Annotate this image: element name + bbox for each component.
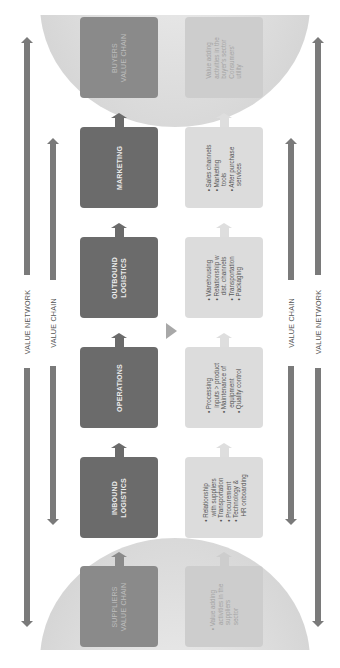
buyers-item: Value adding (205, 37, 213, 78)
inbound-detail-box: • Relationship with suppliers • Transpor… (185, 457, 263, 538)
inbound-item: • Procurement (224, 474, 232, 522)
outbound-title-line1: OUTBOUND (110, 256, 119, 298)
suppliers-detail-box: • Value adding activities in the supplie… (185, 566, 263, 647)
value-network-label-right: VALUE NETWORK (314, 290, 323, 354)
value-chain-label-right: VALUE CHAIN (287, 298, 296, 348)
value-chain-label-left: VALUE CHAIN (49, 298, 58, 348)
inbound-title-line1: INBOUND (110, 478, 119, 518)
outbound-logistics-box: OUTBOUND LOGISTICS (80, 237, 158, 318)
operations-title: OPERATIONS (115, 364, 124, 412)
outbound-item: dist. channels (220, 255, 228, 300)
marketing-item: services (235, 144, 243, 191)
outbound-detail-box: • Warehousing • Relationship w dist. cha… (185, 237, 263, 318)
buyers-detail-box: Value adding activities in the buyer's s… (185, 17, 263, 98)
marketing-item: • Sales channels (205, 144, 213, 191)
outbound-item: • Packaging (235, 255, 243, 300)
buyers-item: activities in the (213, 37, 221, 78)
suppliers-item: suppliers (224, 583, 232, 630)
buyers-dome (0, 15, 340, 127)
suppliers-title-line1: SUPPLIERS (110, 582, 119, 630)
marketing-item: • Marketing (213, 144, 221, 191)
arrow-down-icon (47, 519, 59, 525)
suppliers-item: sector (232, 583, 240, 630)
outbound-title-line2: LOGISTICS (119, 256, 128, 298)
operations-item: inputs > product (213, 362, 221, 412)
marketing-item: • After purchase (228, 144, 236, 191)
marketing-title: MARKETING (115, 145, 124, 189)
arrow-down-icon (21, 621, 33, 627)
buyers-item: buyer's sector (220, 37, 228, 78)
arrow-down-icon (285, 519, 297, 525)
inbound-item: • Relationship (202, 474, 210, 522)
arrow-down-icon (312, 621, 324, 627)
inbound-item: HR onboarding (239, 474, 247, 522)
operations-item: equipment (228, 362, 236, 412)
play-triangle-icon (166, 323, 177, 339)
inbound-item: • Transportation (217, 474, 225, 522)
operations-item: • Quality control (235, 362, 243, 412)
suppliers-dome (0, 538, 340, 650)
inbound-logistics-box: INBOUND LOGISTICS (80, 457, 158, 538)
inbound-item: • Technology & (232, 474, 240, 522)
suppliers-title-line2: VALUE CHAIN (119, 582, 128, 630)
operations-detail-box: • Processing inputs > product • Maintena… (185, 347, 263, 428)
outbound-item: • Transportation (228, 255, 236, 300)
inbound-item: with suppliers (209, 474, 217, 522)
buyers-item: utility (235, 37, 243, 78)
suppliers-value-chain-box: SUPPLIERS VALUE CHAIN (80, 566, 158, 647)
inbound-title-line2: LOGISTICS (119, 478, 128, 518)
marketing-detail-box: • Sales channels • Marketing tools • Aft… (185, 127, 263, 208)
suppliers-item: • Value adding (209, 583, 217, 630)
outbound-item: • Warehousing (205, 255, 213, 300)
value-network-label-left: VALUE NETWORK (23, 290, 32, 354)
suppliers-item: activities in the (217, 583, 225, 630)
buyers-title-line1: BUYERS (110, 33, 119, 81)
buyers-title-line2: VALUE CHAIN (119, 33, 128, 81)
operations-box: OPERATIONS (80, 347, 158, 428)
buyers-item: Consumers' (228, 37, 236, 78)
buyers-value-chain-box: BUYERS VALUE CHAIN (80, 17, 158, 98)
outbound-item: • Relationship w (213, 255, 221, 300)
marketing-box: MARKETING (80, 127, 158, 208)
marketing-item: tools (220, 144, 228, 191)
operations-item: • Maintenance of (220, 362, 228, 412)
operations-item: • Processing (205, 362, 213, 412)
